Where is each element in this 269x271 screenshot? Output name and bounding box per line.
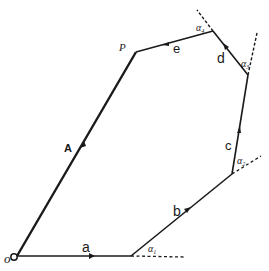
extension-alpha3 — [248, 33, 257, 75]
label-alpha1: α1 — [148, 243, 156, 255]
origin-point — [11, 254, 17, 260]
label-A: A — [64, 142, 72, 154]
label-P: P — [118, 41, 126, 53]
label-alpha4: α4 — [196, 22, 204, 34]
extension-alpha1 — [131, 256, 184, 257]
label-b: b — [173, 203, 181, 219]
label-alpha3: α3 — [241, 58, 249, 70]
label-d: d — [217, 50, 225, 66]
vector-b — [131, 174, 232, 256]
vector-A — [17, 52, 136, 256]
label-e: e — [173, 41, 180, 56]
label-alpha2: α2 — [237, 155, 245, 167]
vector-polygon-diagram: o P A a b c d e α1 α2 α3 α4 — [0, 0, 269, 271]
label-origin: o — [4, 251, 11, 266]
label-c: c — [225, 138, 232, 153]
arrow-a-icon — [89, 253, 95, 259]
label-a: a — [82, 239, 90, 255]
